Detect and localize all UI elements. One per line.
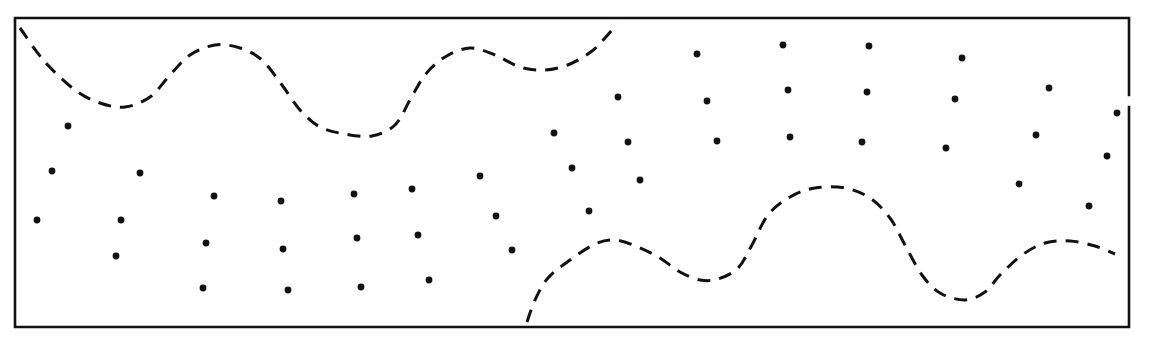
upper-dashed-curve	[20, 24, 617, 137]
dot-scatter	[34, 42, 1121, 294]
dot	[118, 217, 125, 224]
dot	[351, 191, 358, 198]
dot	[285, 287, 292, 294]
dot	[509, 247, 516, 254]
dot	[1016, 181, 1023, 188]
dot	[694, 51, 701, 58]
dot	[1104, 153, 1111, 160]
dot	[866, 43, 873, 50]
dot	[1033, 132, 1040, 139]
dot	[785, 87, 792, 94]
dot	[280, 246, 287, 253]
dot	[65, 123, 72, 130]
dashed-boundaries	[20, 24, 1115, 322]
dot	[714, 138, 721, 145]
dot	[637, 177, 644, 184]
dot	[354, 235, 361, 242]
dot	[615, 94, 622, 101]
dot	[278, 198, 285, 205]
dot	[952, 96, 959, 103]
dot	[1086, 203, 1093, 210]
dot	[780, 42, 787, 49]
dot-field-diagram	[0, 0, 1149, 347]
dot	[859, 139, 866, 146]
dot	[49, 168, 56, 175]
dot	[1114, 110, 1121, 117]
dot	[211, 193, 218, 200]
dot	[137, 170, 144, 177]
dot	[551, 130, 558, 137]
dot	[200, 285, 207, 292]
dot	[625, 139, 632, 146]
dot	[864, 89, 871, 96]
lower-dashed-curve	[527, 187, 1115, 322]
dot	[569, 165, 576, 172]
dot	[477, 173, 484, 180]
dot	[426, 277, 433, 284]
dot	[203, 240, 210, 247]
dot	[409, 186, 416, 193]
dot	[704, 98, 711, 105]
dot	[959, 55, 966, 62]
dot	[787, 134, 794, 141]
dot	[358, 284, 365, 291]
dot	[586, 208, 593, 215]
dot	[1046, 85, 1053, 92]
dot	[943, 145, 950, 152]
dot	[113, 253, 120, 260]
dot	[415, 232, 422, 239]
dot	[493, 213, 500, 220]
dot	[34, 217, 41, 224]
